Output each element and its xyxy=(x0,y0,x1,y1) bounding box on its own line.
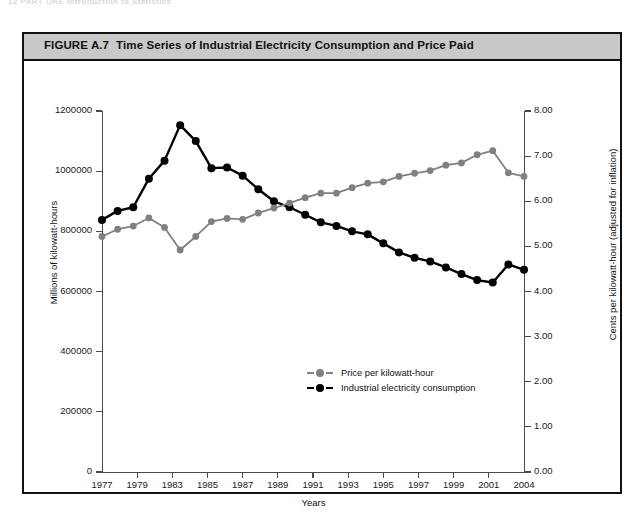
data-point xyxy=(99,233,106,240)
data-point xyxy=(286,200,293,207)
legend-item-price: Price per kilowatt-hour xyxy=(307,367,475,382)
data-point xyxy=(457,270,465,278)
data-point xyxy=(317,218,325,226)
data-point xyxy=(224,215,231,222)
data-point xyxy=(192,137,200,145)
data-point xyxy=(239,216,246,223)
data-point xyxy=(458,159,465,166)
data-point xyxy=(505,169,512,176)
x-axis-title: Years xyxy=(102,497,525,508)
data-point xyxy=(520,266,528,274)
data-point xyxy=(317,190,324,197)
data-point xyxy=(176,121,184,129)
data-point xyxy=(271,205,278,212)
data-point xyxy=(489,147,496,154)
data-point xyxy=(254,185,262,193)
data-point xyxy=(333,190,340,197)
data-point xyxy=(364,230,372,238)
data-point xyxy=(192,233,199,240)
data-point xyxy=(379,239,387,247)
data-point xyxy=(98,216,106,224)
legend-marker-consumption-icon xyxy=(307,383,333,393)
data-point xyxy=(208,218,215,225)
figure-container: FIGURE A.7Time Series of Industrial Elec… xyxy=(22,32,622,494)
figure-caption: FIGURE A.7Time Series of Industrial Elec… xyxy=(44,39,474,51)
data-point xyxy=(223,164,231,172)
legend-label-consumption: Industrial electricity consumption xyxy=(341,383,475,393)
data-point xyxy=(349,184,356,191)
data-point xyxy=(207,164,215,172)
data-point xyxy=(114,226,121,233)
legend-label-price: Price per kilowatt-hour xyxy=(341,368,434,378)
data-point xyxy=(255,210,262,217)
figure-title: Time Series of Industrial Electricity Co… xyxy=(116,39,474,51)
legend-marker-price-icon xyxy=(307,368,333,378)
data-point xyxy=(380,178,387,185)
data-point xyxy=(161,157,169,165)
data-point xyxy=(364,180,371,187)
data-point xyxy=(396,173,403,180)
figure-number: FIGURE A.7 xyxy=(44,39,109,51)
plot-area: 020000040000060000080000010000001200000 … xyxy=(24,61,620,492)
data-point xyxy=(411,170,418,177)
figure-caption-bar: FIGURE A.7Time Series of Industrial Elec… xyxy=(24,34,620,61)
data-point xyxy=(270,197,278,205)
data-point xyxy=(302,194,309,201)
data-point xyxy=(348,227,356,235)
data-point xyxy=(489,278,497,286)
data-point xyxy=(395,248,403,256)
data-point xyxy=(145,175,153,183)
series-consumption xyxy=(98,121,528,286)
data-point xyxy=(411,254,419,262)
data-point xyxy=(427,167,434,174)
series-plot xyxy=(24,61,620,492)
data-point xyxy=(161,224,168,231)
data-point xyxy=(442,263,450,271)
data-point xyxy=(474,151,481,158)
data-point xyxy=(301,211,309,219)
legend-item-consumption: Industrial electricity consumption xyxy=(307,382,475,397)
data-point xyxy=(521,173,528,180)
data-point xyxy=(114,207,122,215)
data-point xyxy=(504,260,512,268)
page-running-head: 12 PART ONE Introduction to Statistics xyxy=(0,0,644,16)
data-point xyxy=(442,162,449,169)
data-point xyxy=(145,215,152,222)
data-point xyxy=(426,257,434,265)
data-point xyxy=(332,222,340,230)
data-point xyxy=(177,247,184,254)
data-point xyxy=(129,203,137,211)
data-point xyxy=(130,223,137,230)
data-point xyxy=(239,172,247,180)
data-point xyxy=(473,276,481,284)
running-head-text: 12 PART ONE Introduction to Statistics xyxy=(8,0,172,6)
chart-legend: Price per kilowatt-hour Industrial elect… xyxy=(307,367,475,397)
